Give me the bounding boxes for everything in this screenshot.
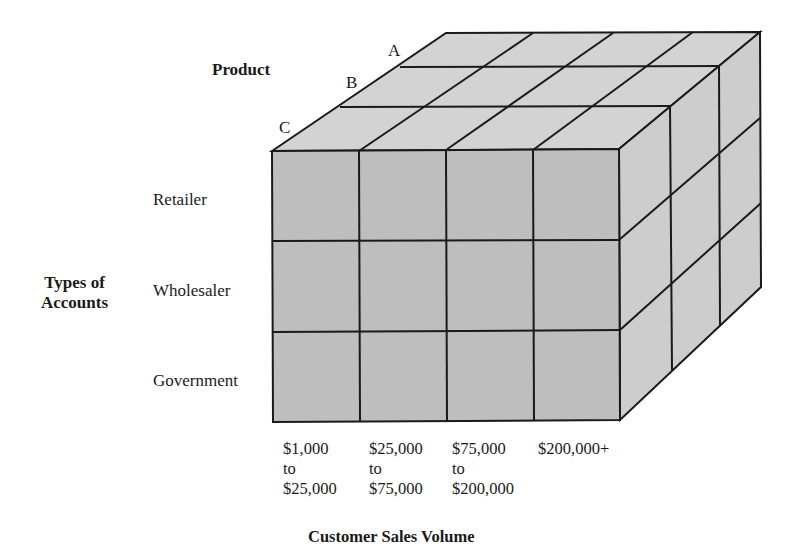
range-2-from: $25,000 [369, 439, 423, 459]
range-1-to: to [283, 459, 337, 479]
account-type-wholesaler: Wholesaler [153, 281, 230, 300]
sales-volume-axis-label: Customer Sales Volume [308, 527, 475, 546]
sales-volume-range-3: $75,000 to $200,000 [452, 439, 514, 499]
range-3-upper: $200,000 [452, 479, 514, 499]
sales-volume-range-1: $1,000 to $25,000 [283, 439, 337, 499]
sales-volume-range-4: $200,000+ [538, 439, 609, 459]
range-4-from: $200,000+ [538, 439, 609, 459]
account-type-retailer: Retailer [153, 190, 207, 209]
accounts-axis-label: Types of Accounts [41, 273, 108, 313]
range-1-from: $1,000 [283, 439, 337, 459]
product-label-b: B [346, 73, 357, 92]
accounts-axis-label-line1: Types of [41, 273, 108, 293]
account-type-government: Government [153, 371, 238, 390]
sales-volume-range-2: $25,000 to $75,000 [369, 439, 423, 499]
range-2-upper: $75,000 [369, 479, 423, 499]
range-3-from: $75,000 [452, 439, 514, 459]
range-3-to: to [452, 459, 514, 479]
product-label-c: C [279, 118, 290, 137]
accounts-axis-label-line2: Accounts [41, 293, 108, 313]
range-1-upper: $25,000 [283, 479, 337, 499]
product-label-a: A [388, 41, 400, 60]
range-2-to: to [369, 459, 423, 479]
product-axis-label: Product [212, 60, 270, 79]
